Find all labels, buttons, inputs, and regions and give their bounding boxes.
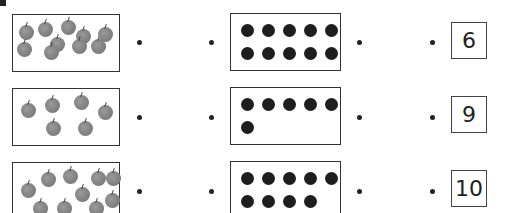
corner-mark <box>0 0 6 6</box>
apple-icon <box>75 187 90 202</box>
apple-group-box <box>12 162 120 213</box>
apple-icon <box>61 20 76 35</box>
apple-icon <box>41 172 56 187</box>
dot-group-box <box>230 87 341 145</box>
dot-icon <box>241 47 254 60</box>
dot-icon <box>241 172 254 185</box>
apple-icon <box>21 183 36 198</box>
match-point[interactable] <box>357 40 362 45</box>
apple-icon <box>57 201 72 213</box>
dot-group-box <box>230 13 341 71</box>
number-box: 6 <box>451 22 487 59</box>
number-box: 9 <box>451 96 487 133</box>
dot-icon <box>262 172 275 185</box>
match-point[interactable] <box>357 189 362 194</box>
dot-icon <box>241 98 254 111</box>
match-point[interactable] <box>137 115 142 120</box>
dot-icon <box>304 24 317 37</box>
match-point[interactable] <box>209 189 214 194</box>
apple-icon <box>19 25 34 40</box>
apple-icon <box>38 22 53 37</box>
dot-icon <box>283 172 296 185</box>
apple-icon <box>46 121 61 136</box>
match-point[interactable] <box>137 40 142 45</box>
apple-icon <box>33 201 48 213</box>
apple-icon <box>74 95 89 110</box>
apple-group-box <box>12 88 120 146</box>
apple-icon <box>44 45 59 60</box>
apple-icon <box>63 169 78 184</box>
apple-icon <box>98 105 113 120</box>
match-point[interactable] <box>430 40 435 45</box>
dot-icon <box>325 172 338 185</box>
dot-icon <box>304 98 317 111</box>
apple-group-box <box>12 14 120 72</box>
apple-icon <box>91 171 106 186</box>
dot-icon <box>283 24 296 37</box>
dot-icon <box>241 121 254 134</box>
apple-icon <box>106 171 121 186</box>
dot-icon <box>262 195 275 208</box>
number-box: 10 <box>451 170 487 207</box>
dot-icon <box>283 98 296 111</box>
apple-icon <box>98 27 113 42</box>
apple-icon <box>72 39 87 54</box>
apple-icon <box>17 42 32 57</box>
apple-icon <box>45 98 60 113</box>
apple-icon <box>105 193 120 208</box>
match-point[interactable] <box>430 115 435 120</box>
dot-icon <box>304 195 317 208</box>
match-point[interactable] <box>137 189 142 194</box>
dot-icon <box>262 47 275 60</box>
apple-icon <box>89 201 104 213</box>
dot-icon <box>325 47 338 60</box>
dot-icon <box>241 195 254 208</box>
match-point[interactable] <box>430 189 435 194</box>
dot-icon <box>241 24 254 37</box>
match-point[interactable] <box>209 115 214 120</box>
dot-icon <box>304 47 317 60</box>
apple-icon <box>21 103 36 118</box>
dot-icon <box>325 24 338 37</box>
dot-icon <box>283 47 296 60</box>
dot-group-box <box>230 161 341 213</box>
apple-icon <box>78 121 93 136</box>
dot-icon <box>262 24 275 37</box>
dot-icon <box>304 172 317 185</box>
dot-icon <box>283 195 296 208</box>
match-point[interactable] <box>357 115 362 120</box>
match-point[interactable] <box>209 40 214 45</box>
dot-icon <box>262 98 275 111</box>
dot-icon <box>325 98 338 111</box>
